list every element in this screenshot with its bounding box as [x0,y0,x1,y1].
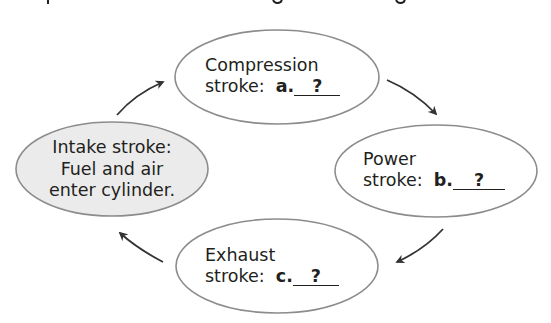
compression-question: stroke: a.? [205,76,340,97]
arrow-power-to-exhaust [397,229,443,262]
answer-blank-b[interactable]: ? [453,171,505,190]
answer-label-b: b. [434,170,453,190]
exhaust-title: Exhaust [205,245,339,266]
exhaust-question: stroke: c.? [205,266,339,287]
answer-label-c: c. [276,266,293,286]
arrow-compression-to-power [387,80,436,114]
power-question: stroke: b.? [363,170,505,191]
answer-label-a: a. [276,76,294,96]
answer-blank-c[interactable]: ? [293,267,339,286]
arrow-intake-to-compression [117,82,163,115]
compression-title: Compression [205,55,340,76]
answer-blank-a[interactable]: ? [294,77,340,96]
compression-stroke-node: Compression stroke: a.? [205,55,340,97]
arrow-exhaust-to-intake [120,233,163,262]
intake-desc-line1: Fuel and air [16,159,208,181]
power-stroke-node: Power stroke: b.? [363,149,505,191]
intake-title: Intake stroke: [16,137,208,159]
intake-desc-line2: enter cylinder. [16,180,208,202]
intake-stroke-node: Intake stroke: Fuel and air enter cylind… [16,137,208,202]
power-title: Power [363,149,505,170]
exhaust-stroke-node: Exhaust stroke: c.? [205,245,339,287]
